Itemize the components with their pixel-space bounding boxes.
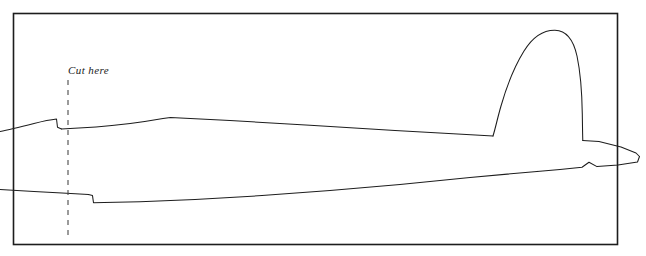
cut-here-label: Cut here bbox=[68, 64, 109, 76]
page-background bbox=[0, 0, 646, 256]
aircraft-profile-drawing bbox=[0, 0, 646, 256]
figure-page: Cut here bbox=[0, 0, 646, 256]
